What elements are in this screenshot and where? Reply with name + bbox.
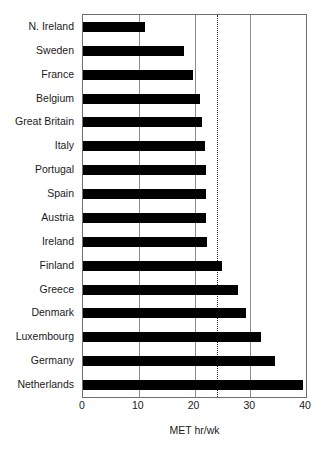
bar-chart: N. IrelandSwedenFranceBelgiumGreat Brita… — [0, 0, 322, 460]
bar-row — [83, 182, 306, 206]
y-label-france: France — [41, 68, 74, 79]
bar-great-britain — [83, 117, 202, 127]
bar-row — [83, 134, 306, 158]
y-label-portugal: Portugal — [35, 164, 74, 175]
bar-italy — [83, 141, 205, 151]
bar-series — [83, 15, 306, 397]
y-label-germany: Germany — [31, 355, 74, 366]
y-axis-category-labels: N. IrelandSwedenFranceBelgiumGreat Brita… — [0, 14, 78, 398]
bar-row — [83, 111, 306, 135]
plot-area — [82, 14, 307, 398]
x-axis-tick-labels: 010203040 — [82, 400, 307, 416]
bar-n-ireland — [83, 22, 145, 32]
bar-greece — [83, 285, 238, 295]
y-label-n-ireland: N. Ireland — [28, 21, 74, 32]
y-label-austria: Austria — [41, 212, 74, 223]
bar-row — [83, 15, 306, 39]
y-label-netherlands: Netherlands — [17, 379, 74, 390]
bar-row — [83, 302, 306, 326]
x-tick-30: 30 — [243, 400, 255, 411]
bar-row — [83, 349, 306, 373]
bar-portugal — [83, 165, 206, 175]
bar-sweden — [83, 46, 184, 56]
y-label-great-britain: Great Britain — [15, 116, 74, 127]
y-label-finland: Finland — [40, 259, 74, 270]
x-tick-0: 0 — [79, 400, 85, 411]
bar-france — [83, 70, 193, 80]
y-label-sweden: Sweden — [36, 45, 74, 56]
bar-finland — [83, 261, 222, 271]
bar-row — [83, 254, 306, 278]
bar-row — [83, 278, 306, 302]
bar-row — [83, 206, 306, 230]
x-tick-20: 20 — [188, 400, 200, 411]
bar-row — [83, 63, 306, 87]
bar-belgium — [83, 94, 200, 104]
y-label-spain: Spain — [47, 188, 74, 199]
bar-netherlands — [83, 380, 303, 390]
y-label-ireland: Ireland — [42, 236, 74, 247]
bar-row — [83, 325, 306, 349]
y-label-belgium: Belgium — [36, 92, 74, 103]
bar-row — [83, 373, 306, 397]
x-axis-title: MET hr/wk — [82, 424, 307, 436]
bar-austria — [83, 213, 206, 223]
bar-row — [83, 87, 306, 111]
bar-spain — [83, 189, 206, 199]
y-label-denmark: Denmark — [31, 307, 74, 318]
y-label-luxembourg: Luxembourg — [16, 331, 74, 342]
bar-denmark — [83, 308, 246, 318]
bar-row — [83, 39, 306, 63]
y-label-italy: Italy — [55, 140, 74, 151]
bar-row — [83, 230, 306, 254]
bar-germany — [83, 356, 275, 366]
bar-luxembourg — [83, 332, 261, 342]
bar-ireland — [83, 237, 207, 247]
x-tick-40: 40 — [299, 400, 311, 411]
y-label-greece: Greece — [40, 283, 74, 294]
x-tick-10: 10 — [132, 400, 144, 411]
bar-row — [83, 158, 306, 182]
